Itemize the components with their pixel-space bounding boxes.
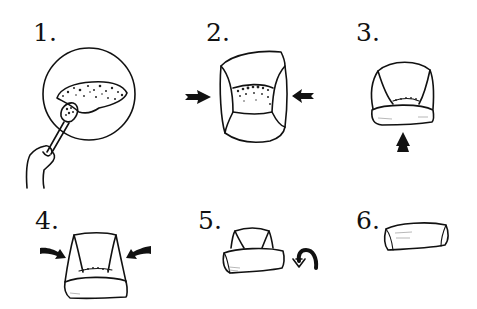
- filling-edge: [233, 85, 273, 114]
- arrow-diagonal-right-icon: [40, 248, 66, 259]
- bottom-fold: [65, 277, 128, 298]
- step-5-illustration: [223, 228, 316, 273]
- bottom-fold: [372, 105, 434, 125]
- arrow-up-icon: [396, 132, 410, 152]
- arrow-diagonal-left-icon: [126, 246, 151, 259]
- illustration-canvas: [0, 0, 477, 309]
- arrow-right-icon: [185, 90, 211, 104]
- filling-line: [393, 99, 419, 101]
- step-6-illustration: [385, 223, 448, 250]
- wrapper-top: [372, 62, 434, 109]
- spoon-handle: [47, 122, 69, 154]
- step-2-illustration: [185, 51, 314, 142]
- step-1-illustration: [26, 48, 135, 188]
- wrapper-circle: [43, 48, 135, 140]
- rolled-base: [223, 249, 284, 273]
- hand: [26, 146, 54, 188]
- step-3-illustration: [372, 62, 434, 152]
- finished-package: [385, 223, 448, 250]
- step-4-illustration: [40, 233, 151, 299]
- wrapper-top: [65, 233, 126, 282]
- folded-wrapper: [220, 51, 287, 142]
- arrow-left-icon: [292, 89, 314, 103]
- right-fold: [272, 66, 285, 127]
